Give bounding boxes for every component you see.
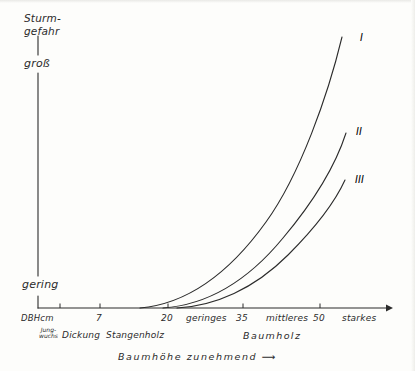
- x-tick-label-20: 20: [161, 314, 173, 324]
- x-axis-caption: Baumhöhe zunehmend ⟶: [118, 352, 277, 362]
- curve-label-I: I: [360, 32, 363, 43]
- curve-label-II: II: [356, 126, 362, 137]
- y-axis-label-high: groß: [24, 58, 50, 70]
- x-category-geringes: geringes: [186, 314, 227, 324]
- arrow-right-icon: ⟶: [262, 351, 277, 362]
- x-group-label-baumholz: Baumholz: [243, 331, 301, 341]
- y-axis-label-low: gering: [22, 279, 58, 291]
- curve-label-III: III: [355, 174, 364, 185]
- y-axis-title-line1: Sturm-: [24, 12, 61, 25]
- x-axis-arrow-icon: [386, 304, 393, 311]
- x-tick-label-50: 50: [313, 314, 325, 324]
- x-category-mittleres: mittleres: [266, 314, 308, 324]
- x-axis-unit-label: DBHcm: [21, 314, 54, 323]
- x-stage-stangenholz: Stangenholz: [106, 331, 164, 341]
- y-axis-title: Sturm- gefahr: [24, 12, 61, 38]
- x-stage-jungwuchs: Jung- wuchs: [39, 327, 58, 340]
- storm-risk-diagram: I II III Sturm- gefahr groß gering DBHcm…: [0, 0, 415, 371]
- curve-III: [177, 180, 345, 308]
- x-tick-label-7: 7: [96, 314, 102, 324]
- x-axis-caption-text: Baumhöhe zunehmend: [118, 351, 257, 362]
- x-tick-label-35: 35: [236, 314, 248, 324]
- x-category-starkes: starkes: [342, 314, 376, 324]
- curve-I: [140, 37, 342, 308]
- x-axis-ticks: [60, 304, 320, 309]
- x-stage-jungwuchs-line2: wuchs: [39, 333, 58, 339]
- x-stage-dickung: Dickung: [62, 331, 100, 341]
- y-axis-title-line2: gefahr: [24, 25, 61, 38]
